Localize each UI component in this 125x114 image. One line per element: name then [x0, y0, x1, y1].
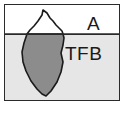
zone-label-below-water: TFB [65, 44, 102, 63]
zone-label-above-water: A [87, 14, 100, 33]
iceberg-submerged-mass [22, 34, 64, 96]
iceberg-diagram: A TFB [4, 4, 120, 101]
figure-root: A TFB [0, 0, 125, 114]
iceberg-tip [27, 10, 63, 34]
